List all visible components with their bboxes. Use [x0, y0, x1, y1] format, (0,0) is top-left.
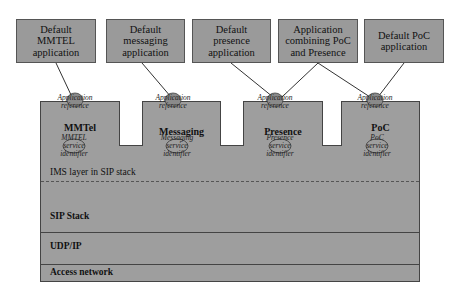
app-ref-text: reference: [261, 101, 289, 110]
service-id-text: identifier: [266, 149, 294, 158]
app-ref-label-mmtel: Applicationreference: [45, 94, 105, 110]
service-id-label-presence: Presenceserviceidentifier: [250, 134, 310, 158]
service-id-label-poc: PoCserviceidentifier: [347, 134, 407, 158]
service-id-label-mmtel: MMTELserviceidentifier: [44, 134, 104, 158]
app-ref-label-poc: Applicationreference: [345, 94, 405, 110]
service-id-text: identifier: [363, 149, 391, 158]
app-ref-label-messaging: Applicationreference: [143, 94, 203, 110]
app-ref-text: reference: [61, 101, 89, 110]
service-id-label-messaging: Messagingserviceidentifier: [147, 134, 207, 158]
service-id-text: identifier: [163, 149, 191, 158]
app-ref-text: reference: [159, 101, 187, 110]
app-ref-label-presence: Applicationreference: [245, 94, 305, 110]
app-ref-text: reference: [361, 101, 389, 110]
service-id-text: identifier: [60, 149, 88, 158]
